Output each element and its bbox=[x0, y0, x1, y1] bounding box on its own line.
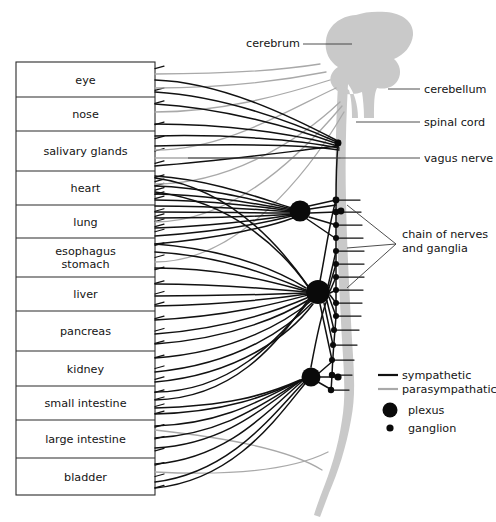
chain-label-line1: chain of nerves bbox=[402, 228, 488, 241]
legend-ganglion-swatch bbox=[386, 424, 393, 431]
conn-lower-up bbox=[311, 300, 327, 367]
ganglion-node bbox=[333, 222, 339, 228]
organ-row-label: stomach bbox=[61, 258, 109, 271]
chain-label-leader-1 bbox=[347, 244, 396, 248]
symp-fiber-stomach-2 bbox=[155, 268, 306, 291]
organ-nerve-stub bbox=[155, 316, 164, 319]
symp-fiber-lung-4 bbox=[155, 218, 293, 244]
symp-fiber-salivary-a bbox=[155, 136, 339, 148]
symp-fiber-pancreas-1 bbox=[155, 295, 308, 320]
diagram-canvas: eyenosesalivary glandsheartlungesophagus… bbox=[0, 0, 496, 522]
legend-parasympathetic-label: parasympathatic bbox=[402, 383, 496, 396]
symp-fiber-kidney-1 bbox=[155, 301, 311, 358]
ganglion-node bbox=[333, 313, 339, 319]
organ-nerve-stub bbox=[155, 377, 164, 380]
organ-row-label: pancreas bbox=[60, 325, 111, 338]
legend-plexus-label: plexus bbox=[408, 404, 445, 417]
legend-sympathetic-label: sympathetic bbox=[402, 369, 471, 382]
legend-ganglion-label: ganglion bbox=[408, 422, 456, 435]
organ-nerve-stub bbox=[155, 404, 164, 407]
plexus-celiac bbox=[306, 280, 330, 304]
ganglion-node bbox=[333, 287, 339, 293]
organ-nerve-stub bbox=[155, 224, 164, 227]
organ-row-label: heart bbox=[71, 182, 101, 195]
ganglion-node bbox=[333, 248, 339, 254]
organ-nerve-stub bbox=[155, 214, 164, 217]
organ-box: eyenosesalivary glandsheartlungesophagus… bbox=[16, 62, 164, 495]
ganglion-node bbox=[328, 387, 334, 393]
organ-row-label: lung bbox=[73, 216, 97, 229]
vagus-nerve-label: vagus nerve bbox=[424, 152, 493, 165]
organ-row-label: esophagus bbox=[55, 245, 116, 258]
para-fiber-bladder bbox=[155, 452, 328, 473]
organ-row-label: kidney bbox=[67, 363, 105, 376]
organ-nerve-stub bbox=[155, 101, 164, 104]
organ-nerve-stub bbox=[155, 302, 164, 305]
organ-nerve-stub bbox=[155, 366, 164, 369]
organ-nerve-stub bbox=[155, 209, 164, 212]
para-fiber-large-intestine bbox=[155, 430, 322, 470]
ganglion-node bbox=[333, 261, 339, 267]
organ-nerve-stub bbox=[155, 292, 164, 295]
organ-nerve-stub bbox=[155, 474, 164, 477]
organ-nerve-stub bbox=[155, 196, 164, 199]
organ-nerve-stub bbox=[155, 329, 164, 332]
organ-nerve-stub bbox=[155, 281, 164, 284]
chain-label-group: chain of nerves and ganglia bbox=[347, 205, 488, 288]
organ-nerve-stub bbox=[155, 188, 164, 191]
ans-diagram: eyenosesalivary glandsheartlungesophagus… bbox=[0, 0, 496, 522]
organ-nerve-stub bbox=[155, 255, 164, 258]
symp-fiber-kidney-2 bbox=[155, 303, 312, 372]
ganglion-node bbox=[329, 372, 335, 378]
legend: sympatheticparasympathaticplexusganglion bbox=[378, 369, 496, 435]
ganglion-node bbox=[329, 357, 335, 363]
organ-nerve-stub bbox=[155, 66, 164, 69]
node-chain-upper bbox=[338, 208, 345, 215]
organ-row-label: small intestine bbox=[44, 397, 126, 410]
spinal-cord-label: spinal cord bbox=[424, 116, 485, 129]
ganglion-node bbox=[333, 300, 339, 306]
symp-fiber-liver-2 bbox=[155, 293, 306, 296]
organ-row-label: eye bbox=[75, 74, 96, 87]
symp-fiber-lung-3 bbox=[155, 216, 292, 236]
organ-row-label: salivary glands bbox=[43, 145, 127, 158]
organ-nerve-stub bbox=[155, 219, 164, 222]
organ-row-label: bladder bbox=[64, 471, 107, 484]
organ-row-label: liver bbox=[73, 288, 98, 301]
cerebrum-label: cerebrum bbox=[246, 37, 300, 50]
organ-row-label: large intestine bbox=[45, 433, 126, 446]
ganglion-node bbox=[331, 327, 337, 333]
node-chain-lower bbox=[334, 373, 341, 380]
plexus-cardiopulmonary bbox=[290, 201, 311, 222]
symp-fiber-small-int-2 bbox=[155, 300, 308, 400]
ganglion-node bbox=[330, 342, 336, 348]
organ-nerve-stub bbox=[155, 161, 164, 164]
plexus-hypogastric bbox=[302, 368, 321, 387]
symp-fiber-large-int-1 bbox=[155, 379, 303, 426]
legend-plexus-swatch bbox=[383, 403, 398, 418]
ganglion-node bbox=[333, 197, 340, 204]
ganglion-node bbox=[333, 274, 339, 280]
para-fiber-eye bbox=[155, 64, 320, 74]
organ-nerve-stub bbox=[155, 229, 164, 232]
organ-row-label: nose bbox=[72, 108, 99, 121]
conn-celiac-7 bbox=[327, 301, 334, 330]
organ-box-background bbox=[16, 62, 155, 495]
node-vagus-junction bbox=[335, 140, 342, 147]
para-fiber-salivary-2 bbox=[155, 88, 336, 150]
cerebellum-label: cerebellum bbox=[424, 83, 486, 96]
chain-label-line2: and ganglia bbox=[402, 242, 468, 255]
ganglion-node bbox=[333, 235, 339, 241]
